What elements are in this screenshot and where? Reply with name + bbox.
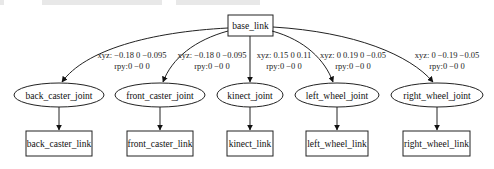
edges-joints-to-links <box>59 107 437 130</box>
edge-label-xyz: xyz: 0.15 0 0.11 <box>257 50 312 60</box>
node-label: right_wheel_joint <box>403 91 471 101</box>
edge-labels: xyz: −0.18 0 −0.095 rpy:0 −0 0 xyz: −0.1… <box>98 50 480 71</box>
node-label: left_wheel_link <box>307 139 367 149</box>
node-back-caster-joint[interactable]: back_caster_joint <box>14 83 104 107</box>
edge-label-rpy: rpy:0 −0 0 <box>335 61 371 71</box>
node-base-link[interactable]: base_link <box>228 15 273 36</box>
node-label: front_caster_link <box>128 139 193 149</box>
node-label: back_caster_link <box>27 139 92 149</box>
node-label: right_wheel_link <box>404 139 469 149</box>
node-right-wheel-joint[interactable]: right_wheel_joint <box>391 83 483 107</box>
node-front-caster-joint[interactable]: front_caster_joint <box>115 83 205 107</box>
node-label: kinect_link <box>229 139 272 149</box>
edge-label-rpy: rpy:0 −0 0 <box>114 61 150 71</box>
node-label: base_link <box>232 21 269 31</box>
node-kinect-joint[interactable]: kinect_joint <box>217 83 283 107</box>
edge-label-rpy: rpy:0 −0 0 <box>429 61 465 71</box>
node-label: left_wheel_joint <box>306 91 369 101</box>
edge-label-xyz: xyz: 0 0.19 0 −0.05 <box>320 50 386 60</box>
node-left-wheel-link[interactable]: left_wheel_link <box>306 131 368 156</box>
edge-label-xyz: xyz: −0.18 0 −0.095 <box>178 50 247 60</box>
urdf-graph: base_link xyz: −0.18 0 −0.095 rpy:0 −0 0… <box>0 0 494 169</box>
node-label: kinect_joint <box>227 91 273 101</box>
node-kinect-link[interactable]: kinect_link <box>227 131 273 156</box>
edge-label-rpy: rpy:0 −0 0 <box>266 61 302 71</box>
edge-label-xyz: xyz: 0 −0.19 −0.05 <box>415 50 480 60</box>
node-front-caster-link[interactable]: front_caster_link <box>127 131 193 156</box>
node-left-wheel-joint[interactable]: left_wheel_joint <box>295 83 379 107</box>
edge-label-rpy: rpy:0 −0 0 <box>194 61 230 71</box>
node-label: front_caster_joint <box>126 91 194 101</box>
node-back-caster-link[interactable]: back_caster_link <box>26 131 92 156</box>
node-right-wheel-link[interactable]: right_wheel_link <box>403 131 470 156</box>
node-label: back_caster_joint <box>25 91 92 101</box>
edge-label-xyz: xyz: −0.18 0 −0.095 <box>98 50 167 60</box>
